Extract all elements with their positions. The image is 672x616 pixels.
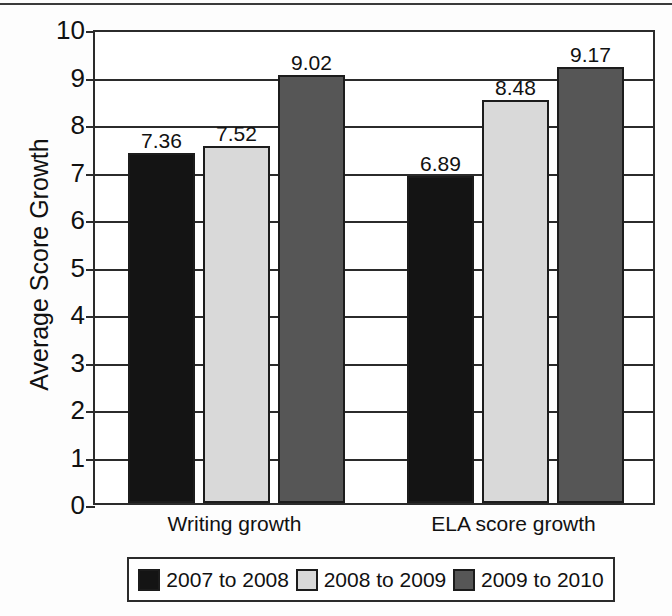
bar-value-label: 9.02 bbox=[291, 52, 332, 73]
legend-item[interactable]: 2008 to 2009 bbox=[296, 569, 447, 591]
bar[interactable]: 9.02 bbox=[278, 75, 345, 503]
y-axis-tick-label: 9 bbox=[45, 65, 85, 91]
y-axis-tick-label: 4 bbox=[45, 302, 85, 328]
bar-chart: Average Score Growth 109876543210 7.367.… bbox=[0, 0, 672, 616]
legend-item[interactable]: 2009 to 2010 bbox=[453, 569, 604, 591]
chart-legend: 2007 to 20082008 to 20092009 to 2010 bbox=[127, 557, 615, 602]
y-axis-tick-label: 5 bbox=[45, 255, 85, 281]
y-axis-tick bbox=[86, 459, 95, 461]
y-axis-tick bbox=[86, 174, 95, 176]
bar-value-label: 6.89 bbox=[420, 153, 461, 174]
bar[interactable]: 8.48 bbox=[482, 100, 549, 503]
category-label: ELA score growth bbox=[404, 512, 624, 536]
y-axis-tick-labels: 109876543210 bbox=[43, 30, 85, 505]
legend-swatch-icon bbox=[296, 569, 318, 591]
bar[interactable]: 6.89 bbox=[407, 176, 474, 503]
bar-value-label: 7.52 bbox=[216, 123, 257, 144]
category-label: Writing growth bbox=[125, 512, 345, 536]
bar[interactable]: 7.52 bbox=[203, 146, 270, 503]
y-axis-tick bbox=[86, 364, 95, 366]
legend-label: 2008 to 2009 bbox=[324, 569, 447, 590]
y-axis-tick bbox=[86, 221, 95, 223]
y-axis-tick bbox=[86, 31, 95, 33]
legend-label: 2007 to 2008 bbox=[166, 569, 289, 590]
y-axis-tick-label: 7 bbox=[45, 160, 85, 186]
y-axis-tick-label: 1 bbox=[45, 445, 85, 471]
bar-value-label: 9.17 bbox=[570, 44, 611, 65]
bar-value-label: 8.48 bbox=[495, 77, 536, 98]
y-axis-tick bbox=[86, 126, 95, 128]
y-axis-tick-label: 3 bbox=[45, 350, 85, 376]
legend-item[interactable]: 2007 to 2008 bbox=[138, 569, 289, 591]
bar[interactable]: 9.17 bbox=[557, 67, 624, 503]
bar[interactable]: 7.36 bbox=[128, 153, 195, 503]
legend-swatch-icon bbox=[453, 569, 475, 591]
y-axis-tick-label: 0 bbox=[45, 492, 85, 518]
y-axis-tick-label: 6 bbox=[45, 207, 85, 233]
y-axis-tick-label: 2 bbox=[45, 397, 85, 423]
legend-swatch-icon bbox=[138, 569, 160, 591]
y-axis-tick-label: 10 bbox=[45, 17, 85, 43]
y-axis-tick-label: 8 bbox=[45, 112, 85, 138]
legend-label: 2009 to 2010 bbox=[481, 569, 604, 590]
y-axis-tick bbox=[86, 506, 95, 508]
y-axis-tick bbox=[86, 269, 95, 271]
bar-value-label: 7.36 bbox=[141, 130, 182, 151]
y-axis-tick bbox=[86, 411, 95, 413]
y-axis-tick bbox=[86, 316, 95, 318]
plot-area: 7.367.529.026.898.489.17 bbox=[93, 30, 655, 505]
y-axis-tick bbox=[86, 79, 95, 81]
